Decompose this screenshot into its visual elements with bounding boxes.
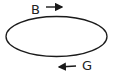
label-g: G [82,58,92,73]
label-b: B [31,2,40,17]
ellipse-shape [6,17,107,57]
arrow-left-icon [59,66,76,67]
diagram-canvas: B G [0,0,113,74]
